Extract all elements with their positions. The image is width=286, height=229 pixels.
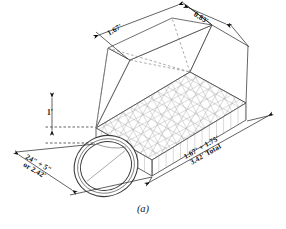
technical-drawing bbox=[0, 0, 286, 229]
figure-container: 1.67' 0.83' 1' 24" + 5" or 2.42' 1.67' +… bbox=[0, 0, 286, 229]
vertical-height-dimension-label: 1' bbox=[47, 109, 53, 117]
figure-caption: (a) bbox=[0, 203, 286, 214]
vertical-height-dimension-lines bbox=[44, 98, 93, 143]
